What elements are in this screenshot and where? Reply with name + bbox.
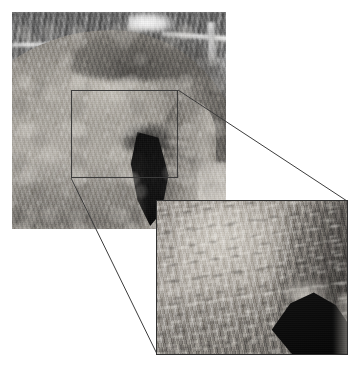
- callout-label: Region of interest box on the main photo…: [71, 90, 72, 91]
- inset-photo-description: Magnified inset showing the fine coat ha…: [156, 200, 157, 201]
- figure-root: Grayscale photograph of the hindquarters…: [0, 0, 357, 365]
- inset-right-edge-light: [333, 293, 348, 355]
- region-of-interest-box: Region of interest box on the main photo…: [71, 90, 178, 178]
- inset-light-patch: [167, 205, 295, 289]
- magnified-inset-photograph: Magnified inset showing the fine coat ha…: [156, 200, 348, 355]
